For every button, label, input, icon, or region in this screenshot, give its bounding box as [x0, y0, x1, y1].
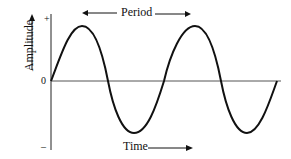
- time-label: Time: [123, 140, 148, 152]
- time-arrow-head-icon: [186, 145, 193, 151]
- left-arrow-head-icon: [82, 10, 88, 16]
- period-label: Period: [121, 6, 152, 18]
- y-tick-zero: 0: [41, 76, 46, 86]
- y-tick-plus: +: [44, 14, 50, 24]
- right-arrow-head-icon: [185, 11, 191, 17]
- y-tick-minus: –: [41, 142, 46, 152]
- sine-wave: [51, 26, 277, 133]
- y-axis-label: Amplitude: [22, 16, 37, 76]
